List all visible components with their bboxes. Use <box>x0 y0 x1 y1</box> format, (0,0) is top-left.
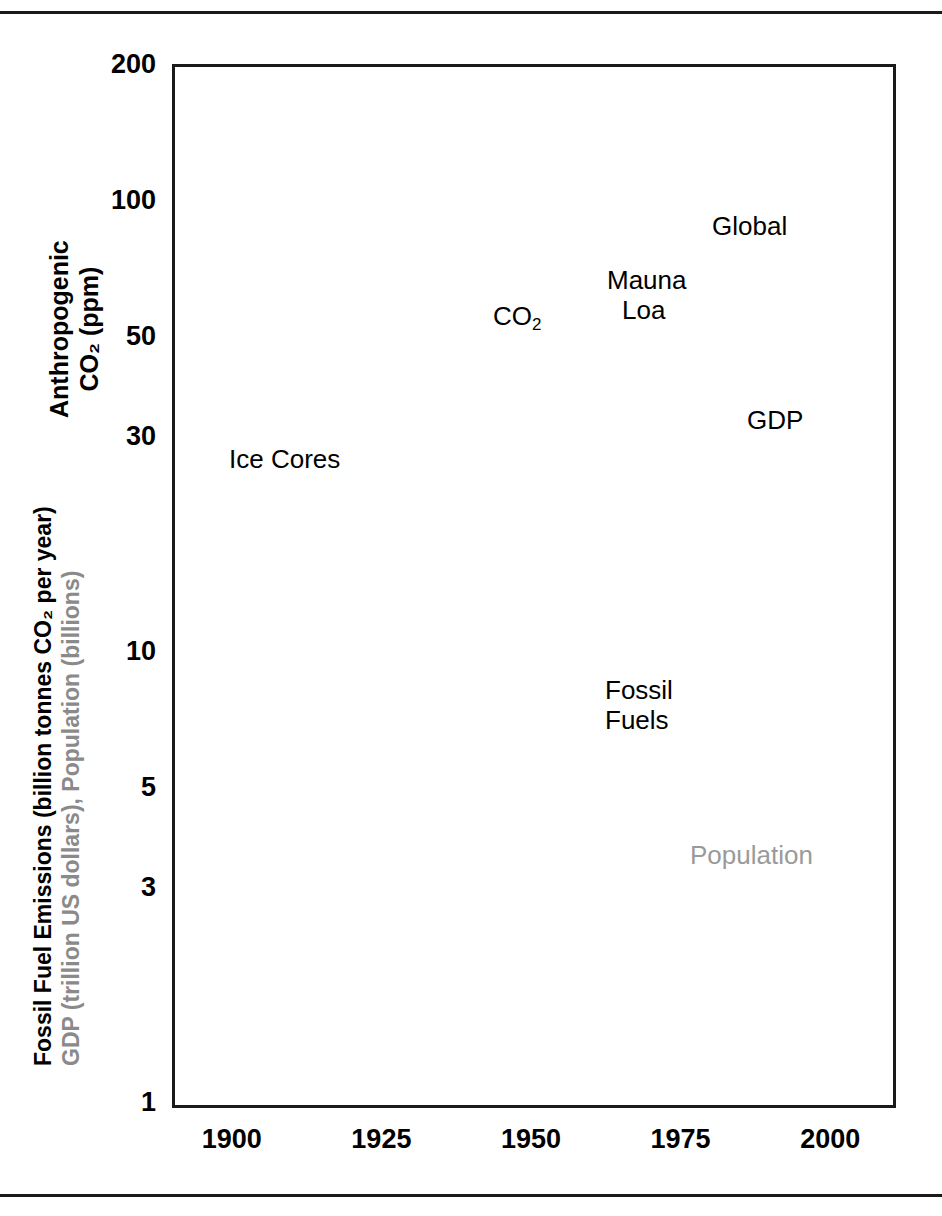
annotation-co2-subscript: 2 <box>532 315 541 334</box>
x-axis-tick-labels: 19001925195019752000 <box>172 1124 890 1164</box>
y-axis-tick-labels: 200100503010531 <box>20 64 156 1102</box>
y-tick-label: 200 <box>36 49 156 80</box>
bottom-rule <box>0 1194 942 1197</box>
y-tick-label: 30 <box>36 420 156 451</box>
plot-frame <box>172 64 896 1108</box>
y-tick-label: 3 <box>36 871 156 902</box>
annotation-fossil-line1: Fossil <box>605 675 673 705</box>
annotation-mauna-loa-line1: Mauna <box>607 265 687 295</box>
x-tick-label: 1950 <box>501 1124 561 1155</box>
x-tick-label: 1925 <box>351 1124 411 1155</box>
annotation-mauna-loa-line2: Loa <box>622 295 665 325</box>
annotation-global: Global <box>712 211 787 241</box>
annotation-co2: CO2 <box>493 301 541 340</box>
y-tick-label: 5 <box>36 771 156 802</box>
x-tick-label: 1900 <box>202 1124 262 1155</box>
annotation-gdp: GDP <box>747 405 803 435</box>
annotation-population: Population <box>690 840 813 870</box>
annotation-co2-text: CO <box>493 301 532 331</box>
x-tick-label: 1975 <box>651 1124 711 1155</box>
y-tick-label: 1 <box>36 1087 156 1118</box>
y-tick-label: 10 <box>36 635 156 666</box>
figure-panel: Anthropogenic CO₂ (ppm) Fossil Fuel Emis… <box>0 14 942 1194</box>
y-tick-label: 100 <box>36 184 156 215</box>
annotation-fossil-line2: Fuels <box>605 705 669 735</box>
y-tick-label: 50 <box>36 320 156 351</box>
annotation-ice-cores: Ice Cores <box>229 444 340 474</box>
x-tick-label: 2000 <box>800 1124 860 1155</box>
